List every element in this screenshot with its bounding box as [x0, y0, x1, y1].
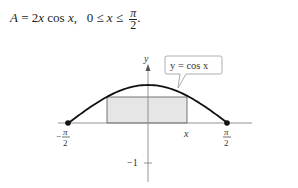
inscribed-rectangle: [107, 97, 187, 123]
cosine-graph: y −1 − π 2 x π 2 y = cos x: [0, 0, 298, 188]
left-tick-denominator: 2: [63, 138, 68, 148]
callout-label: y = cos x: [170, 60, 209, 71]
right-endpoint: [224, 120, 230, 126]
left-tick-sign: −: [56, 131, 61, 141]
x-label: x: [183, 128, 189, 139]
right-tick-numerator: π: [224, 127, 229, 137]
neg-one-label: −1: [127, 157, 138, 168]
left-tick-numerator: π: [63, 127, 68, 137]
y-axis-arrow-icon: [146, 64, 151, 71]
right-tick-denominator: 2: [224, 138, 229, 148]
left-endpoint: [65, 120, 71, 126]
y-axis-label: y: [143, 53, 149, 64]
